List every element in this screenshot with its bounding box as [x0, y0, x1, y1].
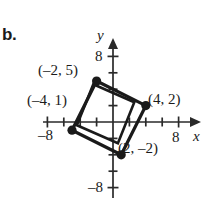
y-axis-arrowhead: [108, 38, 118, 49]
point-label-4-2: (4, 2): [148, 92, 181, 107]
y-axis-group: [108, 38, 119, 198]
x-axis-arrowhead: [190, 117, 201, 127]
x-axis-name: x: [193, 129, 200, 144]
x-axis-label-8: 8: [172, 130, 180, 145]
x-axis-group: [43, 117, 201, 128]
x-axis-label-neg8: –8: [38, 128, 53, 143]
y-axis-label-neg8: –8: [88, 180, 103, 195]
vertex-dot--2-5: [92, 76, 101, 85]
vertex-dot--5--1: [67, 126, 76, 135]
point-label-2-neg2: (2, –2): [118, 141, 158, 156]
figure-panel: b.: [0, 0, 210, 212]
y-axis-label-8: 8: [95, 49, 103, 64]
image-square: [77, 84, 134, 143]
point-label-neg4-1: (–4, 1): [27, 93, 67, 108]
y-axis-name: y: [97, 28, 104, 43]
point-label-neg2-5: (–2, 5): [38, 63, 78, 78]
